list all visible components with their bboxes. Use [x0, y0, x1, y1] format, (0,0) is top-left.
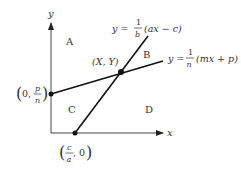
svg-text:p: p	[35, 84, 40, 93]
x-intercept-label: ( c a , 0 )	[59, 143, 92, 164]
x-intercept-point	[73, 131, 78, 136]
y-axis-label: y	[47, 8, 54, 19]
svg-text:(mx + p): (mx + p)	[196, 53, 238, 64]
shallow-line-equation: y = 1 n (mx + p)	[167, 48, 238, 69]
svg-text:(: (	[59, 143, 65, 162]
svg-text:1: 1	[188, 48, 193, 57]
intersection-point	[118, 69, 124, 75]
svg-text:0,: 0,	[22, 88, 31, 99]
region-a-label: A	[65, 36, 74, 47]
intersection-label: (X, Y)	[92, 56, 119, 67]
region-d-label: D	[145, 104, 153, 115]
svg-text:y =: y =	[111, 23, 128, 34]
region-b-label: B	[143, 49, 150, 60]
svg-text:a: a	[67, 155, 72, 164]
svg-text:n: n	[187, 60, 192, 69]
svg-text:): )	[86, 143, 92, 162]
steep-line-equation: y = 1 b (ax − c)	[111, 18, 182, 39]
svg-text:y =: y =	[167, 53, 184, 64]
y-intercept-label: ( 0, p n )	[16, 84, 48, 105]
svg-text:n: n	[35, 96, 40, 105]
svg-text:b: b	[135, 30, 140, 39]
x-axis-label: x	[167, 127, 173, 138]
supply-demand-diagram: y x A B C D (X, Y) y = 1 b (ax − c) y = …	[0, 0, 241, 170]
y-intercept-point	[49, 92, 54, 97]
svg-text:c: c	[67, 143, 72, 152]
region-c-label: C	[68, 104, 76, 115]
svg-text:1: 1	[136, 18, 141, 27]
svg-text:(ax − c): (ax − c)	[144, 23, 182, 34]
svg-text:, 0: , 0	[73, 147, 85, 158]
svg-text:): )	[42, 84, 48, 103]
